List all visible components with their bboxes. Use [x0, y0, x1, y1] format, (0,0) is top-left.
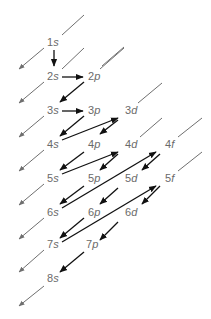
orbital-label-2p: 2p	[88, 70, 100, 82]
orbital-label-3s: 3s	[47, 104, 59, 116]
orbital-label-4f: 4f	[165, 138, 175, 150]
orbital-label-3p: 3p	[88, 104, 100, 116]
orbital-label-4d: 4d	[125, 138, 138, 150]
orbital-label-5p: 5p	[88, 172, 100, 184]
orbital-label-8s: 8s	[47, 272, 59, 284]
orbital-label-2s: 2s	[47, 70, 59, 82]
orbital-label-5s: 5s	[47, 172, 59, 184]
orbital-label-1s: 1s	[47, 36, 59, 48]
orbital-label-6d: 6d	[125, 206, 138, 218]
orbital-label-5d: 5d	[125, 172, 138, 184]
guide-arrows-lower	[19, 48, 44, 306]
filling-order-arrows	[54, 50, 160, 272]
aufbau-diagram: 1s 2s 2p 3s 3p 3d 4s 4p 4d 4f 5s 5p 5d 5…	[0, 0, 211, 319]
orbital-label-4s: 4s	[47, 138, 59, 150]
orbital-label-3d: 3d	[125, 104, 138, 116]
orbital-label-7s: 7s	[47, 238, 59, 250]
orbital-label-6s: 6s	[47, 206, 59, 218]
orbital-label-7p: 7p	[86, 238, 98, 250]
orbital-label-5f: 5f	[165, 172, 175, 184]
orbital-label-6p: 6p	[88, 206, 100, 218]
orbital-label-4p: 4p	[88, 138, 100, 150]
